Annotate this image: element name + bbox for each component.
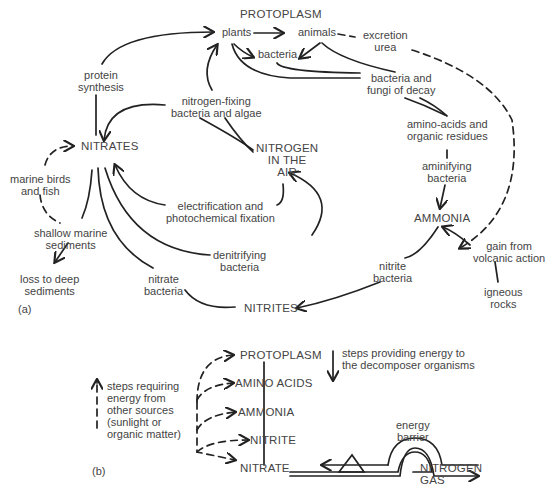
amino-acids-label: amino-acids and organic residues (407, 118, 488, 142)
panel-b-label: (b) (92, 465, 105, 477)
level-protoplasm: PROTOPLASM (240, 349, 322, 361)
energy-barrier-label: energy barrier (396, 419, 430, 443)
electrification-label: electrification and photochemical fixati… (166, 200, 275, 224)
nitrate-bacteria-label: nitrate bacteria (144, 273, 183, 297)
legend-energy-required: steps requiring energy from other source… (107, 380, 181, 440)
protein-synthesis-label: protein synthesis (78, 69, 124, 93)
denitrifying-bacteria-label: denitrifying bacteria (213, 249, 266, 273)
nitrogen-air-label: NITROGEN IN THE AIR (256, 142, 318, 178)
plants-label: plants (222, 26, 251, 38)
decay-organisms-label: bacteria and fungi of decay (367, 72, 436, 96)
excretion-urea-label: excretion urea (363, 29, 408, 53)
bacteria-label: bacteria (258, 48, 297, 60)
panel-a-label: (a) (18, 303, 31, 315)
marine-birds-label: marine birds and fish (10, 173, 71, 197)
legend-energy-providing: steps providing energy to the decomposer… (342, 347, 475, 371)
animals-label: animals (298, 26, 336, 38)
level-nitrate: NITRATE (240, 462, 290, 474)
deep-sediments-label: loss to deep sediments (20, 273, 79, 297)
volcanic-gain-label: gain from volcanic action (473, 240, 545, 264)
nitrates-label: NITRATES (81, 140, 139, 152)
level-nitrite: NITRITE (250, 434, 296, 446)
nitrogen-gas-label: NITROGEN GAS (420, 462, 482, 486)
aminifying-bacteria-label: aminifying bacteria (422, 160, 472, 184)
nitrogen-fixing-label: nitrogen-fixing bacteria and algae (171, 95, 262, 119)
ammonia-label: AMMONIA (414, 212, 470, 224)
level-ammonia: AMMONIA (238, 406, 294, 418)
level-amino-acids: AMINO ACIDS (235, 377, 313, 389)
nitrite-bacteria-label: nitrite bacteria (373, 260, 412, 284)
protoplasm-label: PROTOPLASM (240, 8, 322, 20)
shallow-sediments-label: shallow marine sediments (34, 227, 107, 251)
nitrites-label: NITRITES (244, 302, 298, 314)
igneous-rocks-label: igneous rocks (484, 286, 523, 310)
